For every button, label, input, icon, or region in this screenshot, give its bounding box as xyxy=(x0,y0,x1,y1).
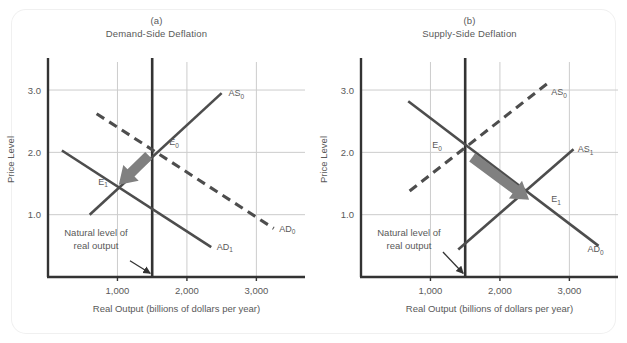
panel-b-name: Supply-Side Deflation xyxy=(313,27,626,40)
y-tick-label-2: 3.0 xyxy=(28,85,41,96)
curve-label-as0: AS0 xyxy=(551,87,567,99)
natural-output-annotation: Natural level ofreal output xyxy=(377,227,441,251)
equilibrium-label-e0: E0 xyxy=(169,137,179,149)
curve-as0 xyxy=(90,93,222,215)
panel-a-title: (a) Demand-Side Deflation xyxy=(0,14,313,40)
curve-label-ad0: AD0 xyxy=(587,244,604,256)
x-tick-label-1: 2,000 xyxy=(175,285,199,296)
panel-b: (b) Supply-Side Deflation 1.02.03.01,000… xyxy=(313,0,626,343)
curve-ad0 xyxy=(408,101,598,246)
y-axis-title: Price Level xyxy=(5,136,16,183)
panel-b-letter: (b) xyxy=(313,14,626,27)
equilibrium-label-e1: E1 xyxy=(551,194,561,206)
y-tick-label-1: 2.0 xyxy=(341,147,354,158)
panel-a: (a) Demand-Side Deflation 1.02.03.01,000… xyxy=(0,0,313,343)
natural-output-annotation: Natural level ofreal output xyxy=(64,227,128,251)
panel-a-letter: (a) xyxy=(0,14,313,27)
equilibrium-label-e0: E0 xyxy=(432,140,442,152)
x-tick-label-0: 1,000 xyxy=(106,285,130,296)
x-tick-label-2: 3,000 xyxy=(244,285,268,296)
x-tick-label-0: 1,000 xyxy=(419,285,443,296)
natural-output-pointer-arrow xyxy=(130,261,150,273)
y-axis-title: Price Level xyxy=(318,136,329,183)
panels-row: (a) Demand-Side Deflation 1.02.03.01,000… xyxy=(0,0,627,343)
x-axis-title: Real Output (billions of dollars per yea… xyxy=(93,303,260,314)
shift-arrow xyxy=(119,152,152,185)
curve-label-ad0: AD0 xyxy=(279,224,296,236)
curve-label-ad1: AD1 xyxy=(217,242,234,254)
curve-label-as1: AS1 xyxy=(578,144,594,156)
panel-b-chart: 1.02.03.01,0002,0003,000Price LevelReal … xyxy=(313,0,626,343)
panel-a-name: Demand-Side Deflation xyxy=(0,27,313,40)
natural-output-pointer-arrow xyxy=(443,252,463,273)
x-axis-title: Real Output (billions of dollars per yea… xyxy=(406,303,573,314)
shift-arrow xyxy=(469,153,529,199)
x-tick-label-2: 3,000 xyxy=(557,285,581,296)
y-tick-label-1: 2.0 xyxy=(28,147,41,158)
y-tick-label-0: 1.0 xyxy=(28,209,41,220)
x-tick-label-1: 2,000 xyxy=(488,285,512,296)
panel-a-chart: 1.02.03.01,0002,0003,000Price LevelReal … xyxy=(0,0,313,343)
figure-container: (a) Demand-Side Deflation 1.02.03.01,000… xyxy=(0,0,627,343)
panel-b-title: (b) Supply-Side Deflation xyxy=(313,14,626,40)
y-tick-label-0: 1.0 xyxy=(341,209,354,220)
y-tick-label-2: 3.0 xyxy=(341,85,354,96)
